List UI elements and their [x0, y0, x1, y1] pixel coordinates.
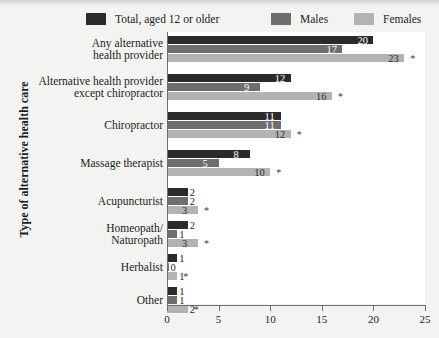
- bar: [167, 254, 177, 262]
- bar: [167, 74, 291, 82]
- category-label: Other: [3, 294, 163, 307]
- bar-value-label: 11: [265, 122, 275, 130]
- x-axis-tick-label: 5: [216, 313, 222, 325]
- bar-value-label: 12: [275, 75, 286, 83]
- significance-asterisk: *: [297, 131, 302, 139]
- bar: [167, 230, 177, 238]
- bar: [167, 296, 177, 304]
- x-axis-tick-label: 15: [316, 313, 327, 325]
- x-axis-tick: [373, 306, 374, 311]
- x-axis-tick: [167, 306, 168, 311]
- significance-asterisk: *: [276, 169, 281, 177]
- x-axis-tick-label: 25: [420, 313, 431, 325]
- bar: [167, 92, 332, 100]
- y-axis-title: Type of alternative health care: [17, 50, 32, 270]
- plot-area: 201723*12916*111112*8510*223*213*101*112…: [167, 32, 425, 304]
- category-label-line: Any alternative: [3, 37, 163, 50]
- significance-asterisk: *: [338, 93, 343, 101]
- x-axis-tick: [270, 306, 271, 311]
- bar-value-label: 1: [179, 297, 184, 305]
- legend-swatch-total: [86, 13, 106, 25]
- x-axis-tick: [219, 306, 220, 311]
- bar: [167, 54, 404, 62]
- bar-value-label: 17: [326, 46, 337, 54]
- legend-item-females: Females: [354, 10, 421, 28]
- bar-value-label: 16: [316, 93, 327, 101]
- bar: [167, 130, 291, 138]
- bar-value-label: 0: [171, 264, 176, 272]
- x-axis-tick-label: 10: [265, 313, 276, 325]
- bar-value-label: 5: [203, 160, 208, 168]
- bar-value-label: 10: [254, 169, 265, 177]
- legend-label-females: Females: [383, 13, 421, 25]
- bar: [167, 188, 188, 196]
- bar-value-label: 2: [190, 198, 195, 206]
- x-axis-tick-label: 0: [164, 313, 170, 325]
- bar-value-label: 8: [234, 151, 239, 159]
- legend-label-total: Total, aged 12 or older: [115, 13, 219, 25]
- significance-asterisk: *: [183, 273, 188, 281]
- bar-value-label: 12: [275, 131, 286, 139]
- bar-value-label: 1: [179, 255, 184, 263]
- bar-value-label: 3: [182, 240, 187, 248]
- x-axis-tick-label: 20: [368, 313, 379, 325]
- category-label-line: Other: [3, 294, 163, 307]
- y-axis-line: [167, 32, 168, 306]
- bar: [167, 221, 188, 229]
- legend-swatch-males: [271, 13, 291, 25]
- bar-value-label: 23: [388, 55, 399, 63]
- significance-asterisk: *: [194, 306, 199, 314]
- bar: [167, 287, 177, 295]
- bar: [167, 121, 281, 129]
- bar-value-label: 3: [182, 207, 187, 215]
- bar: [167, 45, 342, 53]
- chart-page: Total, aged 12 or older Males Females 20…: [0, 0, 439, 338]
- legend-item-total: Total, aged 12 or older: [86, 10, 219, 28]
- bar-value-label: 9: [244, 84, 249, 92]
- legend-item-males: Males: [271, 10, 328, 28]
- bar-value-label: 2: [190, 222, 195, 230]
- bar: [167, 305, 188, 313]
- x-axis-tick: [425, 306, 426, 311]
- x-axis-line: [167, 305, 426, 306]
- bar: [167, 36, 373, 44]
- bar: [167, 197, 188, 205]
- significance-asterisk: *: [204, 207, 209, 215]
- chart-legend: Total, aged 12 or older Males Females: [86, 10, 434, 28]
- legend-label-males: Males: [300, 13, 328, 25]
- bar: [167, 112, 281, 120]
- bar: [167, 272, 177, 280]
- x-axis-tick: [322, 306, 323, 311]
- bar-value-label: 20: [357, 37, 368, 45]
- bar: [167, 159, 219, 167]
- scan-edge-band: [0, 0, 439, 6]
- legend-swatch-females: [354, 13, 374, 25]
- significance-asterisk: *: [410, 55, 415, 63]
- significance-asterisk: *: [204, 240, 209, 248]
